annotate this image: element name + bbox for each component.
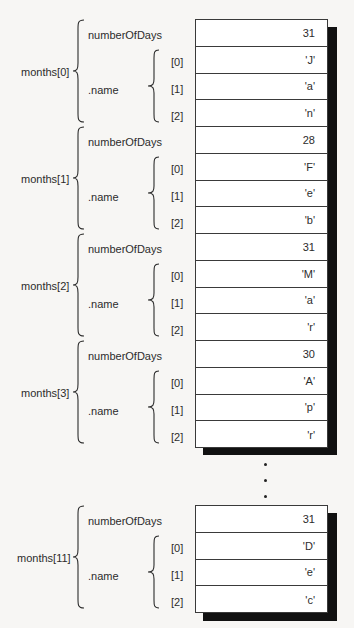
index-label-0: [0] xyxy=(171,270,183,283)
cell-month11-name1: 'e' xyxy=(196,560,327,587)
memory-stack-lower: 31 'D' 'e' 'c' xyxy=(195,505,328,613)
cell-month2-name2: 'r' xyxy=(196,314,327,341)
cell-month3-name0: 'A' xyxy=(196,368,327,395)
cell-month2-name1: 'a' xyxy=(196,288,327,315)
ellipsis-dot xyxy=(264,495,267,498)
cell-month0-name0: 'J' xyxy=(196,47,327,74)
index-label-0: [0] xyxy=(171,542,183,555)
index-label-0: [0] xyxy=(171,377,183,390)
outer-brace-icon xyxy=(72,505,86,609)
cell-value: 'D' xyxy=(303,540,315,552)
index-label-1: [1] xyxy=(171,404,183,417)
cell-month0-name2: 'n' xyxy=(196,100,327,127)
ellipsis-dot xyxy=(264,479,267,482)
month-label: months[11] xyxy=(17,552,71,565)
cell-value: 'a' xyxy=(305,294,315,306)
cell-value: 'e' xyxy=(305,187,315,199)
field-label-name: .name xyxy=(88,298,119,311)
cell-value: 'c' xyxy=(305,594,315,606)
field-label-days: numberOfDays xyxy=(88,350,162,363)
month-label: months[0] xyxy=(21,66,69,79)
cell-value: 30 xyxy=(303,348,315,360)
inner-brace-icon xyxy=(147,370,161,444)
cell-value: 31 xyxy=(303,513,315,525)
index-label-0: [0] xyxy=(171,163,183,176)
field-label-name: .name xyxy=(88,405,119,418)
cell-value: 'n' xyxy=(305,107,315,119)
index-label-2: [2] xyxy=(171,110,183,123)
field-label-name: .name xyxy=(88,84,119,97)
index-label-1: [1] xyxy=(171,83,183,96)
index-label-2: [2] xyxy=(171,431,183,444)
outer-brace-icon xyxy=(72,340,86,444)
index-label-1: [1] xyxy=(171,190,183,203)
cell-month1-name0: 'F' xyxy=(196,154,327,181)
field-label-name: .name xyxy=(88,570,119,583)
cell-value: 31 xyxy=(303,241,315,253)
field-label-days: numberOfDays xyxy=(88,29,162,42)
cell-value: 'p' xyxy=(305,401,315,413)
field-label-days: numberOfDays xyxy=(88,515,162,528)
cell-value: 28 xyxy=(303,134,315,146)
cell-value: 'F' xyxy=(304,161,315,173)
months-memory-diagram: 31 'J' 'a' 'n' 28 'F' 'e' 'b' 31 'M' 'a'… xyxy=(0,0,354,628)
outer-brace-icon xyxy=(72,19,86,123)
month-label: months[2] xyxy=(21,280,69,293)
month-label: months[3] xyxy=(21,387,69,400)
cell-value: 'e' xyxy=(305,566,315,578)
inner-brace-icon xyxy=(147,535,161,609)
cell-value: 'J' xyxy=(305,54,315,66)
cell-month3-name2: 'r' xyxy=(196,421,327,448)
cell-month1-days: 28 xyxy=(196,127,327,154)
index-label-2: [2] xyxy=(171,324,183,337)
ellipsis-dot xyxy=(264,463,267,466)
field-label-days: numberOfDays xyxy=(88,136,162,149)
cell-value: 'a' xyxy=(305,80,315,92)
inner-brace-icon xyxy=(147,263,161,337)
field-label-name: .name xyxy=(88,191,119,204)
cell-month1-name2: 'b' xyxy=(196,207,327,234)
index-label-1: [1] xyxy=(171,569,183,582)
cell-value: 'r' xyxy=(307,321,315,333)
cell-month2-name0: 'M' xyxy=(196,261,327,288)
index-label-1: [1] xyxy=(171,297,183,310)
cell-month0-days: 31 xyxy=(196,20,327,47)
index-label-2: [2] xyxy=(171,596,183,609)
cell-month2-days: 31 xyxy=(196,234,327,261)
cell-value: 31 xyxy=(303,27,315,39)
cell-month0-name1: 'a' xyxy=(196,74,327,101)
outer-brace-icon xyxy=(72,126,86,230)
cell-value: 'M' xyxy=(302,268,315,280)
outer-brace-icon xyxy=(72,233,86,337)
month-label: months[1] xyxy=(21,173,69,186)
field-label-days: numberOfDays xyxy=(88,243,162,256)
cell-month11-name2: 'c' xyxy=(196,586,327,613)
index-label-0: [0] xyxy=(171,56,183,69)
inner-brace-icon xyxy=(147,156,161,230)
inner-brace-icon xyxy=(147,49,161,123)
cell-value: 'r' xyxy=(307,429,315,441)
memory-stack-upper: 31 'J' 'a' 'n' 28 'F' 'e' 'b' 31 'M' 'a'… xyxy=(195,19,328,448)
cell-month11-days: 31 xyxy=(196,506,327,533)
cell-month3-days: 30 xyxy=(196,341,327,368)
cell-value: 'b' xyxy=(305,214,315,226)
index-label-2: [2] xyxy=(171,217,183,230)
cell-value: 'A' xyxy=(303,375,315,387)
cell-month3-name1: 'p' xyxy=(196,395,327,422)
cell-month1-name1: 'e' xyxy=(196,181,327,208)
cell-month11-name0: 'D' xyxy=(196,533,327,560)
